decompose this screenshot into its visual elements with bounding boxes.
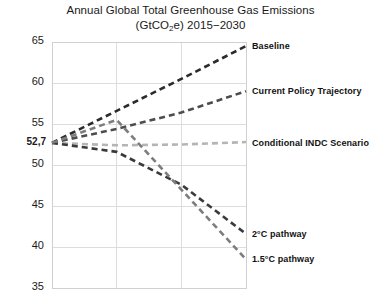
series-line-4 (52, 120, 246, 259)
series-line-2 (52, 142, 246, 145)
chart-figure: Annual Global Total Greenhouse Gas Emiss… (0, 0, 381, 299)
y-axis-tick-label: 65 (4, 34, 44, 46)
series-label: Baseline (252, 41, 290, 51)
plot-area (0, 0, 381, 299)
y-axis-highlight-label: 52,7 (2, 136, 46, 147)
gridlines (52, 42, 246, 288)
series-label: 2°C pathway (252, 229, 307, 239)
series-label: Current Policy Trajectory (252, 86, 362, 96)
y-axis-tick-label: 50 (4, 157, 44, 169)
y-axis-tick-label: 35 (4, 280, 44, 292)
series-label: Conditional INDC Scenario (252, 138, 369, 148)
y-axis-tick-label: 55 (4, 116, 44, 128)
series-label: 1.5°C pathway (252, 254, 314, 264)
series-line-1 (52, 91, 246, 143)
series-lines (52, 46, 246, 259)
series-line-3 (52, 143, 246, 234)
y-axis-tick-label: 40 (4, 239, 44, 251)
y-axis-tick-label: 45 (4, 198, 44, 210)
series-line-0 (52, 46, 246, 143)
y-axis-tick-label: 60 (4, 75, 44, 87)
